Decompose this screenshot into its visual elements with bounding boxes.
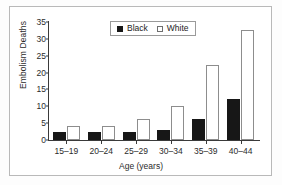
x-axis-tick-mark xyxy=(241,140,242,144)
figure: Embolism Deaths 05101520253035 Black Whi… xyxy=(0,0,282,185)
bar-white-4 xyxy=(206,65,219,140)
y-axis-tick-label: 20 xyxy=(37,68,46,78)
y-axis-title: Embolism Deaths xyxy=(16,10,30,100)
legend-swatch-white-icon xyxy=(157,26,163,32)
bar-group xyxy=(223,22,258,140)
bar-group xyxy=(119,22,154,140)
bar-black-4 xyxy=(192,119,205,140)
plot-area: 05101520253035 xyxy=(49,22,258,140)
y-axis-tick-label: 15 xyxy=(37,84,46,94)
y-axis-tick-label: 30 xyxy=(37,34,46,44)
x-axis-tick-mark xyxy=(66,140,67,144)
x-axis-tick-label: 35–39 xyxy=(194,146,218,156)
y-axis-tick-label: 25 xyxy=(37,51,46,61)
x-axis-tick-label: 20–24 xyxy=(89,146,113,156)
x-axis-tick-mark xyxy=(136,140,137,144)
bar-white-0 xyxy=(67,126,80,140)
bar-group xyxy=(188,22,223,140)
x-axis-tick-label: 15–19 xyxy=(55,146,79,156)
legend-item-black: Black xyxy=(117,24,148,33)
y-axis-tick-label: 35 xyxy=(37,17,46,27)
x-axis-tick-mark xyxy=(101,140,102,144)
x-axis-tick-mark xyxy=(206,140,207,144)
bar-white-5 xyxy=(241,30,254,140)
x-axis-tick-label: 40–44 xyxy=(229,146,253,156)
x-axis-tick-label: 30–34 xyxy=(159,146,183,156)
bar-black-5 xyxy=(227,99,240,140)
bar-black-2 xyxy=(123,132,136,140)
bar-black-0 xyxy=(53,132,66,140)
bar-group xyxy=(49,22,84,140)
legend-swatch-black-icon xyxy=(117,26,123,32)
x-axis-line xyxy=(48,140,260,141)
bar-black-3 xyxy=(157,130,170,140)
bar-white-3 xyxy=(171,106,184,140)
x-axis-tick-mark xyxy=(171,140,172,144)
x-axis-tick-label: 25–29 xyxy=(124,146,148,156)
bar-white-1 xyxy=(102,126,115,140)
x-axis-title: Age (years) xyxy=(0,161,282,171)
bar-group xyxy=(84,22,119,140)
y-axis-tick-label: 10 xyxy=(37,101,46,111)
bar-white-2 xyxy=(137,119,150,140)
legend-item-white: White xyxy=(157,24,189,33)
legend-label-white: White xyxy=(167,24,189,33)
legend: Black White xyxy=(110,21,196,36)
bar-group xyxy=(154,22,189,140)
legend-label-black: Black xyxy=(127,24,148,33)
bar-black-1 xyxy=(88,132,101,140)
